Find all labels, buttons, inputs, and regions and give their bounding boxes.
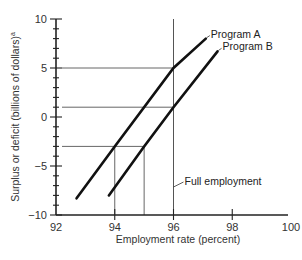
y-tick-label: −5	[34, 160, 47, 172]
x-tick-label: 92	[50, 221, 62, 233]
series-leader	[219, 48, 222, 50]
labels: −10−5051092949698100Program AProgram BFu…	[9, 13, 300, 245]
y-axis-label: Surplus or deficit (billions of dollars)…	[9, 32, 21, 202]
y-axis-label-superscript: a	[9, 32, 16, 36]
series-line-program-b	[109, 51, 218, 195]
y-tick-label: −10	[28, 209, 47, 221]
series-leader	[207, 36, 210, 38]
x-tick-label: 96	[167, 221, 179, 233]
y-tick-label: 10	[35, 13, 47, 25]
y-tick-label: 0	[41, 111, 47, 123]
series-label: Program A	[211, 28, 261, 40]
chart: −10−5051092949698100Program AProgram BFu…	[0, 0, 302, 260]
guide-lines	[62, 19, 174, 215]
annotation-leader	[174, 182, 184, 187]
full-employment-label: Full employment	[185, 175, 262, 187]
x-tick-label: 94	[109, 221, 121, 233]
series-label: Program B	[223, 40, 273, 52]
y-tick-label: 5	[41, 62, 47, 74]
x-axis-label: Employment rate (percent)	[116, 233, 240, 245]
x-tick-label: 98	[226, 221, 238, 233]
x-tick-label: 100	[282, 221, 300, 233]
